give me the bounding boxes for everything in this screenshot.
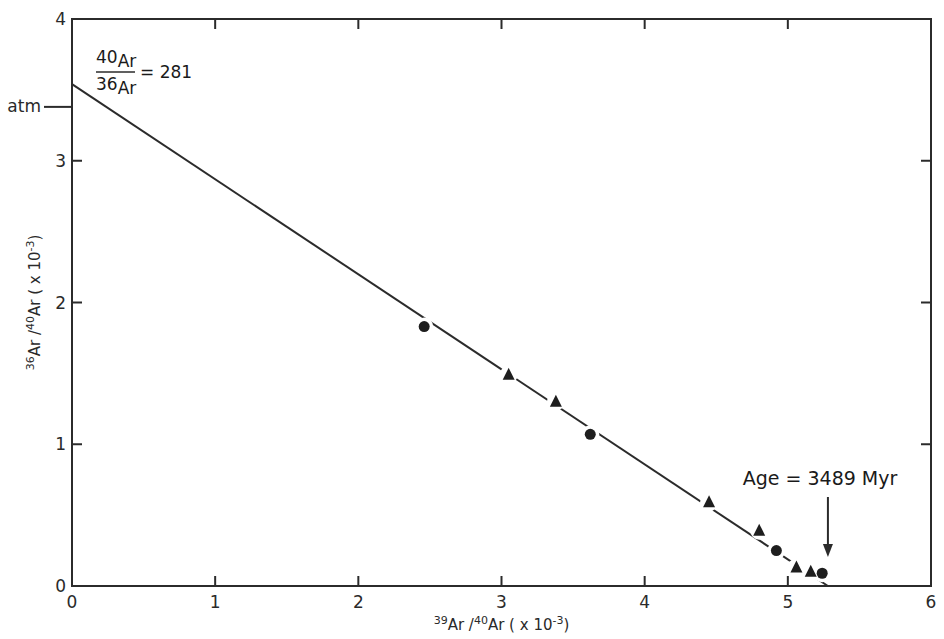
circle-marker (585, 429, 596, 440)
x-axis-label: 39Ar /40Ar ( x 10-3) (434, 614, 570, 634)
y-tick-label: 3 (55, 151, 66, 171)
x-tick-label: 4 (639, 592, 650, 612)
ratio-value: = 281 (140, 62, 192, 82)
y-tick-label: 4 (55, 9, 66, 29)
isochron-chart: 01234560123439Ar /40Ar ( x 10-3)36Ar /40… (0, 0, 944, 639)
age-arrow-head (823, 544, 833, 557)
axis-ticks: 01234560123439Ar /40Ar ( x 10-3)36Ar /40… (24, 9, 936, 634)
plot-frame (72, 19, 931, 586)
circle-marker (817, 568, 828, 579)
annotations: atm40Ar36Ar= 281Age = 3489 Myr (7, 47, 897, 557)
fit-line (72, 84, 828, 586)
circle-marker (771, 545, 782, 556)
x-tick-label: 6 (926, 592, 937, 612)
x-tick-label: 2 (353, 592, 364, 612)
y-tick-label: 0 (55, 576, 66, 596)
atm-label: atm (7, 96, 41, 116)
y-axis-label: 36Ar /40Ar ( x 10-3) (24, 235, 44, 371)
x-tick-label: 0 (67, 592, 78, 612)
x-tick-label: 3 (496, 592, 507, 612)
x-tick-label: 5 (782, 592, 793, 612)
y-tick-label: 1 (55, 434, 66, 454)
circle-marker (419, 321, 430, 332)
ratio-numerator: 40Ar (96, 47, 136, 71)
plot-border (72, 19, 931, 586)
y-tick-label: 2 (55, 293, 66, 313)
age-label: Age = 3489 Myr (743, 467, 898, 489)
regression-line (72, 84, 828, 586)
ratio-denominator: 36Ar (96, 74, 136, 98)
x-tick-label: 1 (210, 592, 221, 612)
